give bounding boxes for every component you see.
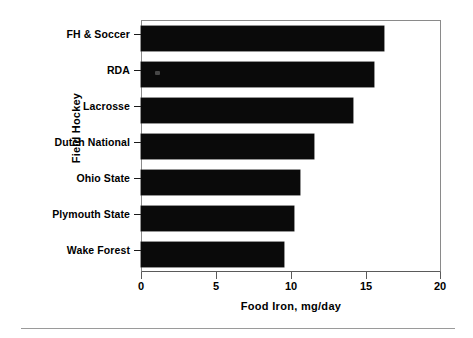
y-axis-tick-mark	[134, 250, 141, 252]
x-axis-tick-mark	[141, 272, 142, 279]
bar-ohio-state	[141, 170, 300, 195]
y-axis-label-text: FH & Soccer	[66, 28, 135, 40]
y-axis-label-ohio-state: Ohio State	[28, 168, 135, 188]
speck-artifact-icon	[155, 71, 160, 75]
x-axis-tick-mark	[216, 272, 217, 279]
bar-chart-figure: Field Hockey FH & Soccer RDA Lacrosse Du…	[0, 0, 473, 338]
y-axis-tick-mark	[134, 70, 141, 72]
x-axis-tick-mark	[291, 272, 292, 279]
x-axis-tick-label-20: 20	[420, 280, 460, 292]
y-axis-label-rda: RDA	[28, 60, 135, 80]
y-axis-tick-mark	[134, 106, 141, 108]
y-axis-label-fh-soccer: FH & Soccer	[28, 24, 135, 44]
y-axis-tick-mark	[134, 34, 141, 36]
x-axis-tick-label-15: 15	[346, 280, 386, 292]
y-axis-tick-mark	[134, 214, 141, 216]
y-axis-tick-mark	[134, 178, 141, 180]
y-axis-label-plymouth-state: Plymouth State	[28, 204, 135, 224]
y-axis-category-labels: FH & Soccer RDA Lacrosse Dutch National …	[28, 20, 135, 272]
bar-dutch-national	[141, 134, 314, 159]
y-axis-label-wake-forest: Wake Forest	[28, 240, 135, 260]
bar-lacrosse	[141, 98, 353, 123]
y-axis-label-lacrosse: Lacrosse	[28, 96, 135, 116]
y-axis-label-text: RDA	[107, 64, 135, 76]
y-axis-label-text: Lacrosse	[83, 100, 135, 112]
bar-plymouth-state	[141, 206, 294, 231]
y-axis-tick-mark	[134, 142, 141, 144]
y-axis-label-text: Dutch National	[55, 136, 135, 148]
bar-fh-soccer	[141, 26, 384, 51]
bar-wake-forest	[141, 242, 284, 267]
x-axis-tick-label-0: 0	[121, 280, 161, 292]
y-axis-label-text: Wake Forest	[67, 244, 135, 256]
x-axis-tick-mark	[366, 272, 367, 279]
footer-divider-rule	[21, 328, 455, 329]
bar-rda	[141, 62, 374, 87]
y-axis-label-text: Ohio State	[76, 172, 135, 184]
bars-layer	[141, 20, 441, 272]
x-axis-tick-label-5: 5	[196, 280, 236, 292]
y-axis-label-text: Plymouth State	[52, 208, 135, 220]
x-axis-tick-mark	[440, 272, 441, 279]
y-axis-label-dutch-national: Dutch National	[28, 132, 135, 152]
x-axis-tick-label-10: 10	[271, 280, 311, 292]
x-axis-title: Food Iron, mg/day	[141, 300, 441, 312]
